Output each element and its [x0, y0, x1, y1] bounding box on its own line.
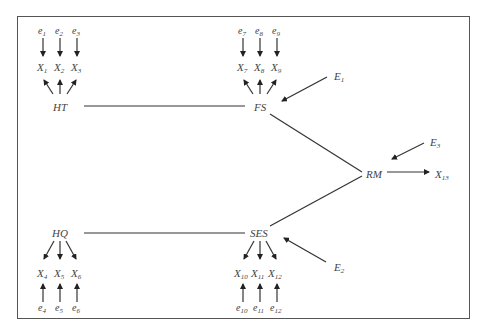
latent-rm: RM: [365, 168, 383, 180]
arrow-ht-x1: [44, 80, 53, 94]
arrow-ht-x3: [67, 80, 76, 94]
error-e6: e6: [72, 302, 80, 315]
indicator-x9: X9: [270, 61, 282, 75]
error-e3: e3: [72, 25, 80, 38]
error-e4: e4: [38, 302, 46, 315]
indicator-x1: X1: [36, 61, 47, 75]
indicator-x4: X4: [36, 267, 48, 281]
disturbance-e3: E3: [429, 136, 441, 150]
error-e12: e12: [270, 302, 282, 315]
arrow-ses-x12: [266, 241, 276, 259]
ses-group: SES X10 X11 X12 e10 e11 e12 E2: [233, 227, 345, 315]
ht-group: e1 e2 e3 X1 X2 X3 HT: [36, 25, 82, 113]
arrow-fs-x7: [244, 80, 253, 94]
latent-ht: HT: [52, 101, 68, 113]
indicator-x10: X10: [233, 267, 248, 281]
arrow-ses-x10: [244, 241, 254, 259]
error-e11: e11: [253, 302, 264, 315]
arrow-fs-x9: [267, 80, 276, 94]
error-e5: e5: [55, 302, 63, 315]
error-e9: e9: [272, 25, 280, 38]
error-e1: e1: [38, 25, 46, 38]
latent-fs: FS: [253, 101, 267, 113]
indicator-x8: X8: [253, 61, 265, 75]
arrow-e2-ses: [284, 238, 326, 262]
disturbance-e2: E2: [333, 261, 345, 275]
error-e2: e2: [55, 25, 63, 38]
path-diagram: e1 e2 e3 X1 X2 X3 HT e7 e8 e9 X7 X8 X9 F…: [0, 0, 486, 334]
indicator-x2: X2: [53, 61, 65, 75]
error-e10: e10: [236, 302, 248, 315]
edge-ses-rm: [270, 176, 362, 226]
indicator-x7: X7: [236, 61, 248, 75]
arrow-e1-fs: [282, 77, 327, 101]
indicator-x13: X13: [434, 168, 449, 182]
edge-fs-rm: [270, 114, 362, 172]
indicator-x12: X12: [267, 267, 282, 281]
arrow-hq-x4: [44, 241, 54, 259]
arrow-e3-rm: [392, 143, 424, 159]
rm-group: RM E3 X13: [365, 136, 449, 182]
latent-ses: SES: [250, 227, 268, 239]
indicator-x3: X3: [70, 61, 82, 75]
indicator-x6: X6: [70, 267, 82, 281]
indicator-x11: X11: [250, 267, 264, 281]
arrow-hq-x6: [66, 241, 76, 259]
error-e8: e8: [255, 25, 263, 38]
indicator-x5: X5: [53, 267, 65, 281]
latent-hq: HQ: [51, 227, 68, 239]
error-e7: e7: [238, 25, 246, 38]
fs-group: e7 e8 e9 X7 X8 X9 FS E1: [236, 25, 344, 113]
disturbance-e1: E1: [333, 70, 344, 84]
